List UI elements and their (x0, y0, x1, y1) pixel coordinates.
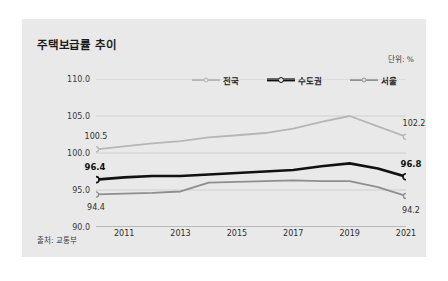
x-axis: 201120132015201720192021 (96, 229, 406, 243)
gridlines (96, 79, 406, 227)
x-axis-tick-label: 2017 (283, 229, 303, 238)
unit-label: 단위: % (388, 53, 414, 64)
series-line-전국 (96, 116, 406, 149)
x-axis-tick-label: 2015 (227, 229, 247, 238)
data-point-marker (403, 193, 406, 198)
x-axis-tick-label: 2019 (339, 229, 359, 238)
page-title: 주택보급률 추이 (37, 36, 116, 52)
y-axis-tick-label: 110.0 (67, 75, 90, 84)
data-point-marker (96, 147, 99, 152)
chart-panel: 주택보급률 추이 단위: % 전국수도권서울 90.095.0100.0105.… (22, 19, 426, 257)
x-axis-tick-label: 2021 (396, 229, 416, 238)
x-axis-tick-label: 2011 (114, 229, 134, 238)
source-label: 출처: 교통부 (37, 234, 77, 245)
y-axis-tick-label: 105.0 (67, 112, 90, 121)
chart-figure: 주택보급률 추이 단위: % 전국수도권서울 90.095.0100.0105.… (0, 0, 448, 281)
data-point-marker (96, 177, 99, 183)
data-point-label: 94.2 (402, 206, 420, 215)
y-axis-tick-label: 100.0 (67, 149, 90, 158)
data-point-label: 100.5 (85, 132, 108, 141)
data-point-label: 96.4 (85, 162, 106, 172)
y-axis-tick-label: 95.0 (72, 186, 90, 195)
data-point-label: 102.2 (403, 119, 426, 128)
data-point-marker (403, 174, 406, 180)
y-axis-tick-label: 90.0 (72, 223, 90, 232)
line-chart-svg (96, 79, 406, 227)
data-point-marker (96, 192, 99, 197)
plot-area: 90.095.0100.0105.0110.0100.5102.296.496.… (96, 79, 406, 227)
x-axis-tick-label: 2013 (170, 229, 190, 238)
data-point-label: 96.8 (401, 159, 422, 169)
series-line-수도권 (96, 163, 406, 179)
data-point-label: 94.4 (87, 203, 105, 212)
series-layer (96, 116, 406, 199)
series-line-서울 (96, 180, 406, 196)
data-point-marker (403, 134, 406, 139)
